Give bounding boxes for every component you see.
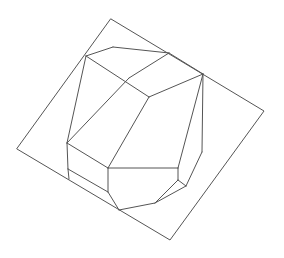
polyhedron-edges bbox=[67, 47, 203, 210]
top-face-top-edge bbox=[113, 47, 169, 53]
left-long-edge bbox=[67, 56, 86, 143]
center-mid-edge bbox=[108, 97, 149, 168]
front-box-left-edge bbox=[67, 143, 68, 169]
small-facet-top bbox=[178, 180, 186, 186]
top-face-ridge-right bbox=[149, 74, 203, 97]
bottom-edge bbox=[119, 203, 155, 210]
right-inner-edge bbox=[178, 74, 203, 168]
right-outer-lower-edge bbox=[186, 152, 202, 186]
square-plane bbox=[17, 19, 264, 240]
top-face-right-edge bbox=[169, 53, 203, 74]
top-face-diagonal bbox=[129, 53, 169, 78]
right-outer-edge bbox=[202, 74, 203, 152]
front-box-bottom-left bbox=[68, 169, 69, 179]
top-face-ridge-left bbox=[86, 56, 149, 97]
front-box-bottom-slant bbox=[108, 192, 119, 210]
front-box-top-edge bbox=[67, 143, 108, 168]
front-box-mid-edge bbox=[68, 169, 108, 192]
small-facet-bottom bbox=[155, 186, 186, 203]
polyhedron-diagram bbox=[0, 0, 284, 258]
small-facet-left bbox=[155, 180, 178, 203]
center-long-edge bbox=[67, 78, 129, 143]
